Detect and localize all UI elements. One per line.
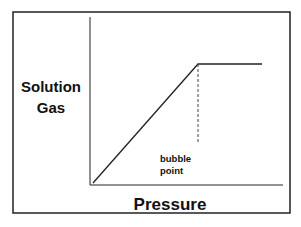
y-axis-label-line2: Gas: [16, 97, 86, 118]
x-axis-label: Pressure: [110, 195, 230, 215]
bubble-point-line1: bubble: [160, 153, 204, 165]
bubble-point-line2: point: [160, 165, 204, 177]
y-axis-label: Solution Gas: [16, 76, 86, 118]
bubble-point-label: bubble point: [160, 153, 204, 177]
y-axis-label-line1: Solution: [16, 76, 86, 97]
